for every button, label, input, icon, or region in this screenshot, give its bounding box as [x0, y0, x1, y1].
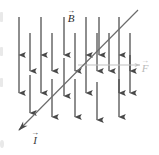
- magnetic-field-label: → B: [67, 8, 75, 24]
- current-vector-arrow: [19, 10, 138, 130]
- vector-accent-f: →: [141, 58, 149, 63]
- force-label: → F: [141, 58, 149, 74]
- physics-figure: → B → F → I: [0, 0, 159, 155]
- figure-canvas: [0, 0, 159, 155]
- magnetic-field-arrow-group: [19, 17, 130, 120]
- current-label: → I: [31, 130, 39, 146]
- vector-accent-b: →: [67, 8, 75, 13]
- vector-accent-i: →: [31, 130, 39, 135]
